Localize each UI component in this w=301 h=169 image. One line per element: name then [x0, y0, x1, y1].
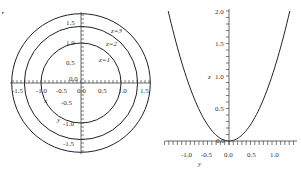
- z-tick-label: 1.0: [215, 73, 224, 81]
- level-curves-chart: -1.5 -1.0 -0.5 0.0 0.5 1.0 1.5 1.5 1.0 0…: [10, 12, 150, 154]
- y-tick-label: 0.0: [224, 151, 233, 159]
- vertical-axis-minor-ticks: [226, 11, 229, 135]
- parabola-chart: 2.0 1.5 1.0 0.5 0.0 z -1.0 -0.5 0.0 0.5 …: [165, 8, 298, 168]
- x-tick-label: 0.0: [77, 87, 86, 95]
- y-tick-label: -0.5: [201, 151, 213, 159]
- z-tick-label: 1.5: [215, 40, 224, 48]
- x-tick-label: -1.0: [36, 87, 48, 95]
- y-tick-label: -1.0: [181, 151, 193, 159]
- curve-label-z3: z=3: [110, 27, 122, 35]
- x-tick-label: 0.5: [98, 87, 107, 95]
- curve-label-z1: z=1: [98, 56, 110, 64]
- curve-label-z2: z=2: [105, 40, 117, 48]
- figure: -1.5 -1.0 -0.5 0.0 0.5 1.0 1.5 1.5 1.0 0…: [0, 0, 301, 169]
- y-tick-label: 0.5: [247, 151, 256, 159]
- origin-label: 0.0: [69, 75, 78, 83]
- y-tick-label: 0.5: [66, 59, 75, 67]
- y-tick-label: -1.5: [63, 140, 75, 148]
- x-axis-minor-ticks: [13, 80, 149, 83]
- y-tick-label: 1.5: [66, 19, 75, 27]
- y-tick-label: -0.5: [61, 99, 73, 107]
- x-tick-label: 1.0: [118, 87, 127, 95]
- x-tick-label: -0.5: [56, 87, 68, 95]
- z-tick-label: 2.0: [215, 8, 224, 16]
- y-tick-label: 1.0: [270, 151, 279, 159]
- y-tick-label: -1.0: [63, 120, 75, 128]
- y-axis-minor-ticks: [81, 15, 84, 151]
- z-axis-label: z: [207, 73, 211, 81]
- horizontal-axis-minor-ticks: [165, 141, 294, 145]
- corner-mark: [2, 12, 4, 14]
- y-tick-label: 1.0: [66, 39, 75, 47]
- y-axis-label: y: [197, 160, 202, 168]
- x-tick-label: 1.5: [140, 87, 149, 95]
- x-tick-label: -1.5: [12, 87, 24, 95]
- z-tick-label: 0.5: [215, 105, 224, 113]
- origin-label: 0.0: [216, 137, 225, 145]
